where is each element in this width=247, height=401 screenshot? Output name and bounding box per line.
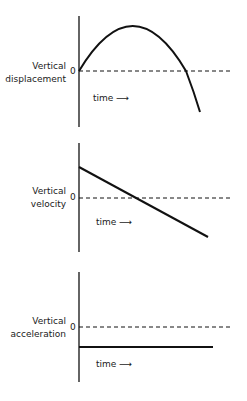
displacement-panel: Vertical displacement 0 time ⟶ [5, 16, 233, 127]
displacement-label-line1: Vertical [32, 61, 66, 71]
velocity-zero-label: 0 [70, 192, 76, 202]
acceleration-panel: Vertical acceleration 0 time ⟶ [11, 272, 232, 382]
displacement-label-line2: displacement [5, 74, 66, 84]
velocity-label-line2: velocity [31, 199, 67, 209]
acceleration-label-line1: Vertical [32, 316, 66, 326]
acceleration-zero-label: 0 [70, 322, 76, 332]
velocity-time-label: time ⟶ [96, 217, 132, 227]
acceleration-time-label: time ⟶ [96, 359, 132, 369]
velocity-label-line1: Vertical [32, 186, 66, 196]
displacement-time-label: time ⟶ [93, 93, 129, 103]
displacement-zero-label: 0 [70, 66, 76, 76]
kinematics-diagram: Vertical displacement 0 time ⟶ Vertical … [0, 0, 247, 401]
acceleration-label-line2: acceleration [11, 329, 66, 339]
velocity-panel: Vertical velocity 0 time ⟶ [31, 143, 233, 252]
